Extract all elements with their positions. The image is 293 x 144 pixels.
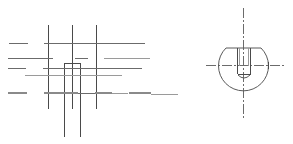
side-view bbox=[206, 8, 285, 120]
technical-drawing bbox=[0, 0, 293, 144]
front-view bbox=[8, 25, 178, 137]
